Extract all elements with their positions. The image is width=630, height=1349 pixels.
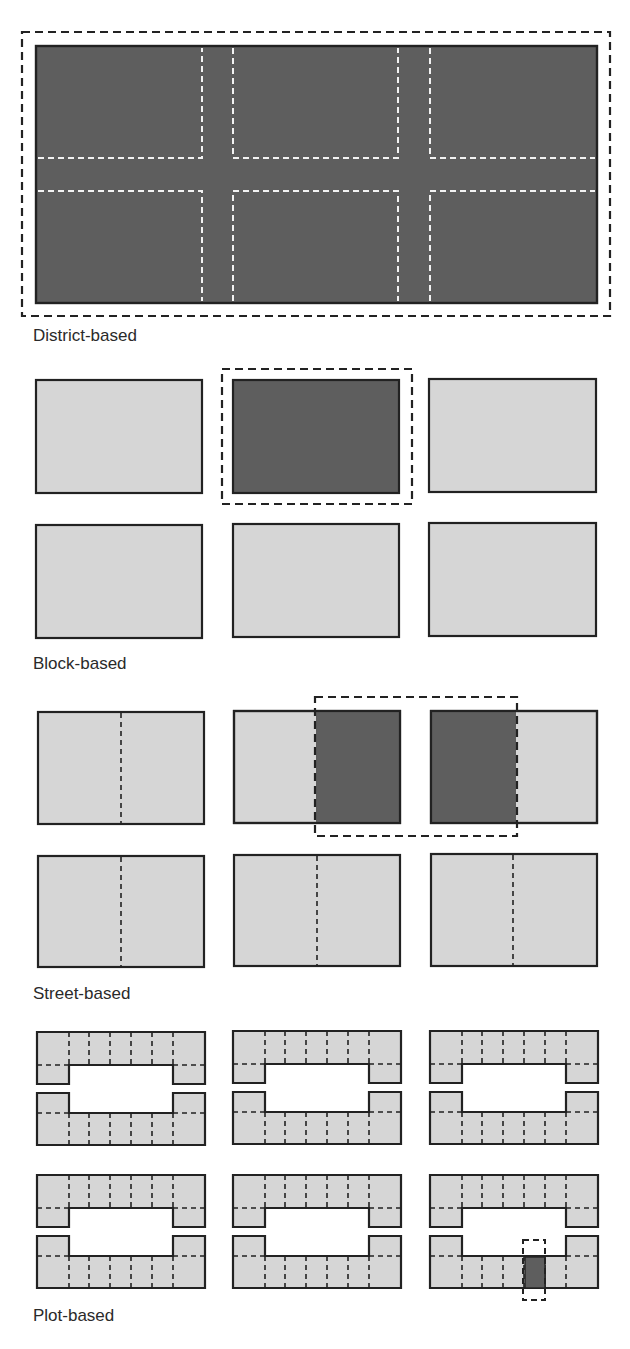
district-based-label: District-based — [33, 326, 137, 346]
street-section — [38, 697, 597, 967]
half-block-selected — [432, 712, 516, 822]
plot-block — [233, 1031, 401, 1144]
block — [36, 525, 202, 638]
block — [233, 524, 399, 637]
street-based-label: Street-based — [33, 984, 130, 1004]
block — [36, 380, 202, 493]
plot-block — [37, 1032, 205, 1145]
plot-block — [37, 1175, 205, 1288]
plot-section — [37, 1031, 598, 1300]
block-based-label: Block-based — [33, 654, 127, 674]
district-area — [36, 46, 597, 303]
plot-block — [430, 1031, 598, 1144]
block — [431, 854, 597, 966]
block-section — [36, 369, 596, 638]
plot-based-label: Plot-based — [33, 1306, 114, 1326]
plot-selected — [525, 1257, 545, 1288]
block — [429, 379, 596, 492]
plot-block — [233, 1175, 401, 1288]
plot-block — [430, 1175, 598, 1288]
block-selected — [233, 380, 399, 493]
district-section — [22, 32, 610, 316]
half-block-selected — [316, 712, 399, 822]
block — [429, 523, 596, 636]
urban-scale-diagram — [0, 0, 630, 1349]
